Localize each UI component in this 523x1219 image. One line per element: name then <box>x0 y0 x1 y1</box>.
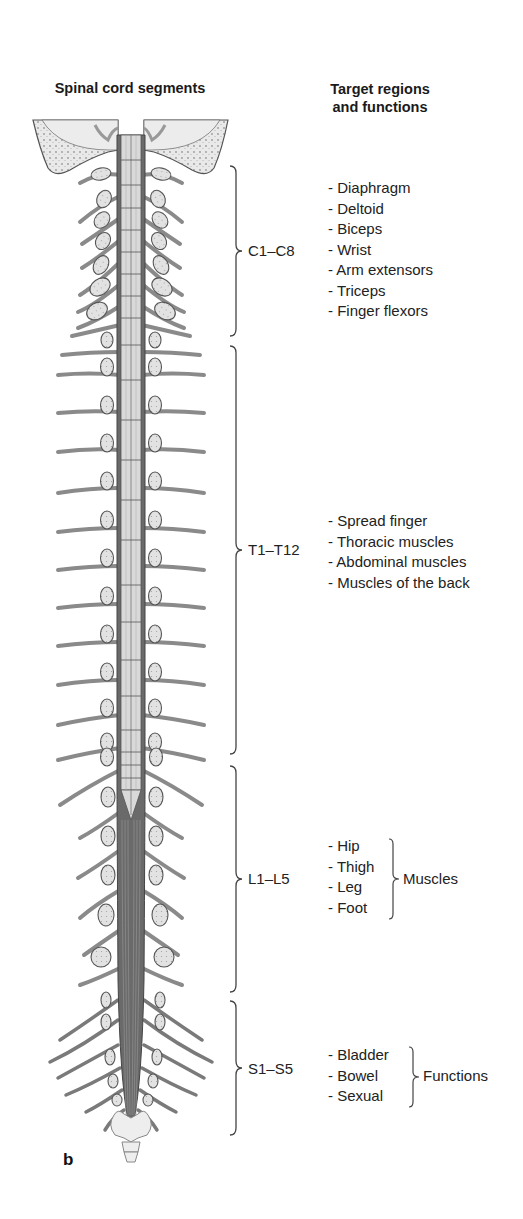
group-label-muscles: Muscles <box>403 870 458 887</box>
function-item: - Diaphragm <box>328 178 433 199</box>
function-item: - Spread finger <box>328 511 470 532</box>
function-item: - Biceps <box>328 219 433 240</box>
segment-label-sacral: S1–S5 <box>248 1060 293 1077</box>
function-list-cervical: - Diaphragm - Deltoid - Biceps - Wrist -… <box>328 178 433 322</box>
spinal-cord-illustration <box>0 0 523 1219</box>
brace-cervical <box>228 165 244 337</box>
group-label-functions: Functions <box>423 1067 488 1084</box>
segment-label-lumbar: L1–L5 <box>248 870 290 887</box>
function-item: - Muscles of the back <box>328 573 470 594</box>
function-item: - Thigh <box>328 857 374 878</box>
panel-letter: b <box>63 1150 73 1170</box>
brace-thoracic <box>228 345 244 755</box>
function-list-lumbar: - Hip - Thigh - Leg - Foot <box>328 836 374 918</box>
segment-label-thoracic: T1–T12 <box>248 541 300 558</box>
segment-label-cervical: C1–C8 <box>248 242 295 259</box>
function-item: - Bowel <box>328 1066 389 1087</box>
function-item: - Bladder <box>328 1045 389 1066</box>
brace-muscles-group <box>388 838 402 920</box>
brace-functions-group <box>408 1046 422 1108</box>
function-list-sacral: - Bladder - Bowel - Sexual <box>328 1045 389 1107</box>
function-item: - Sexual <box>328 1086 389 1107</box>
function-item: - Foot <box>328 898 374 919</box>
function-item: - Finger flexors <box>328 301 433 322</box>
coccyx <box>111 1111 152 1162</box>
function-item: - Triceps <box>328 281 433 302</box>
function-item: - Leg <box>328 877 374 898</box>
brace-lumbar <box>228 765 244 993</box>
brace-sacral <box>228 1000 244 1136</box>
function-item: - Wrist <box>328 240 433 261</box>
function-item: - Abdominal muscles <box>328 552 470 573</box>
function-item: - Thoracic muscles <box>328 532 470 553</box>
function-item: - Deltoid <box>328 199 433 220</box>
function-item: - Arm extensors <box>328 260 433 281</box>
function-item: - Hip <box>328 836 374 857</box>
function-list-thoracic: - Spread finger - Thoracic muscles - Abd… <box>328 511 470 593</box>
spinal-cord <box>117 135 145 1120</box>
